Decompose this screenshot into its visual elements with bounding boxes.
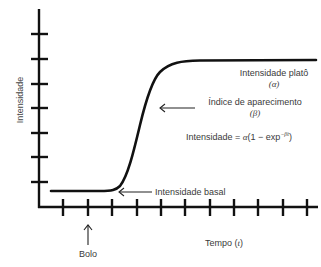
formula-label: Intensidade = α(1 − exp−βt) bbox=[186, 129, 292, 143]
x-axis-label: Tempo (t) bbox=[205, 238, 243, 249]
basal-label: Intensidade basal bbox=[155, 187, 226, 198]
appearance-text: Índice de aparecimento bbox=[194, 97, 316, 108]
appearance-arrow bbox=[160, 104, 195, 112]
y-axis bbox=[31, 9, 48, 208]
appearance-label: Índice de aparecimento (β) bbox=[194, 97, 316, 119]
y-axis-label: Intensidade bbox=[15, 70, 25, 130]
plateau-text: Intensidade platô bbox=[232, 68, 316, 79]
plateau-label: Intensidade platô (α) bbox=[232, 68, 316, 90]
bolus-label: Bolo bbox=[79, 249, 97, 260]
bolus-arrow bbox=[84, 225, 92, 245]
plateau-symbol: (α) bbox=[232, 79, 316, 90]
basal-arrow bbox=[119, 188, 152, 196]
appearance-symbol: (β) bbox=[194, 108, 316, 119]
x-axis bbox=[38, 199, 318, 216]
